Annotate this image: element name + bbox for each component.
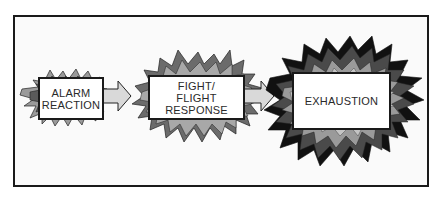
stage-alarm-reaction: ALARM REACTION [38,77,104,120]
arrow-1-icon [100,81,131,111]
stage-label: ALARM REACTION [42,87,100,111]
stage-label: FIGHT/ FLIGHT RESPONSE [165,80,228,116]
stage-exhaustion: EXHAUSTION [292,72,391,130]
stage-label: EXHAUSTION [305,95,379,107]
stage-fight-flight-response: FIGHT/ FLIGHT RESPONSE [148,75,245,120]
